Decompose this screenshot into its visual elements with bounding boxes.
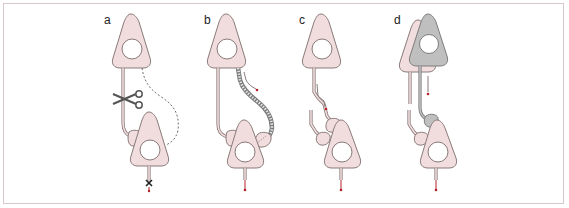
panel-label-c: c <box>299 13 305 27</box>
scissors-icon <box>113 91 142 108</box>
neuron-figure: a <box>0 0 569 208</box>
panel-d: d <box>394 13 457 191</box>
nucleus <box>122 39 142 59</box>
panel-label-a: a <box>104 13 111 27</box>
neuron-bottom <box>420 120 456 191</box>
panel-c: c <box>299 13 361 191</box>
panel-label-b: b <box>204 13 211 27</box>
neuron-top <box>302 14 341 132</box>
panel-a: a <box>104 13 178 192</box>
signal-arrow <box>244 72 256 89</box>
panel-label-d: d <box>394 13 401 27</box>
panel-b: b <box>204 13 272 191</box>
neuron-bottom <box>130 112 168 182</box>
